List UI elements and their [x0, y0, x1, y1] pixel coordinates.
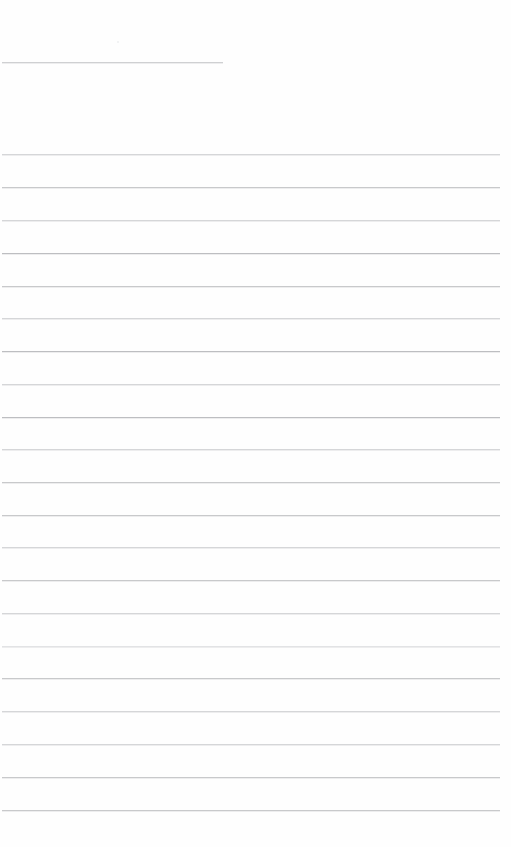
ruling-line [2, 482, 500, 483]
ruling-line [2, 449, 500, 450]
ruling-line [2, 417, 500, 418]
ruling-line [2, 384, 500, 385]
ruling-line [2, 744, 500, 745]
ruling-line [2, 253, 500, 254]
paper-surface [0, 0, 511, 847]
ruling-line [2, 646, 500, 647]
scanned-page [0, 0, 511, 847]
ruling-line [2, 678, 500, 679]
ruling-line [2, 613, 500, 614]
ruling-line [2, 318, 500, 319]
ruling-line [2, 220, 500, 221]
ruling-line [2, 187, 500, 188]
scan-speck-artifact [117, 41, 119, 43]
ruling-line [2, 580, 500, 581]
ruling-line [2, 547, 500, 548]
ruling-line [2, 515, 500, 516]
ruling-line [2, 286, 500, 287]
heading-underline-rule [2, 62, 223, 63]
ruling-line [2, 711, 500, 712]
ruling-line [2, 351, 500, 352]
ruling-line [2, 154, 500, 155]
ruling-line [2, 810, 500, 811]
ruling-line [2, 777, 500, 778]
